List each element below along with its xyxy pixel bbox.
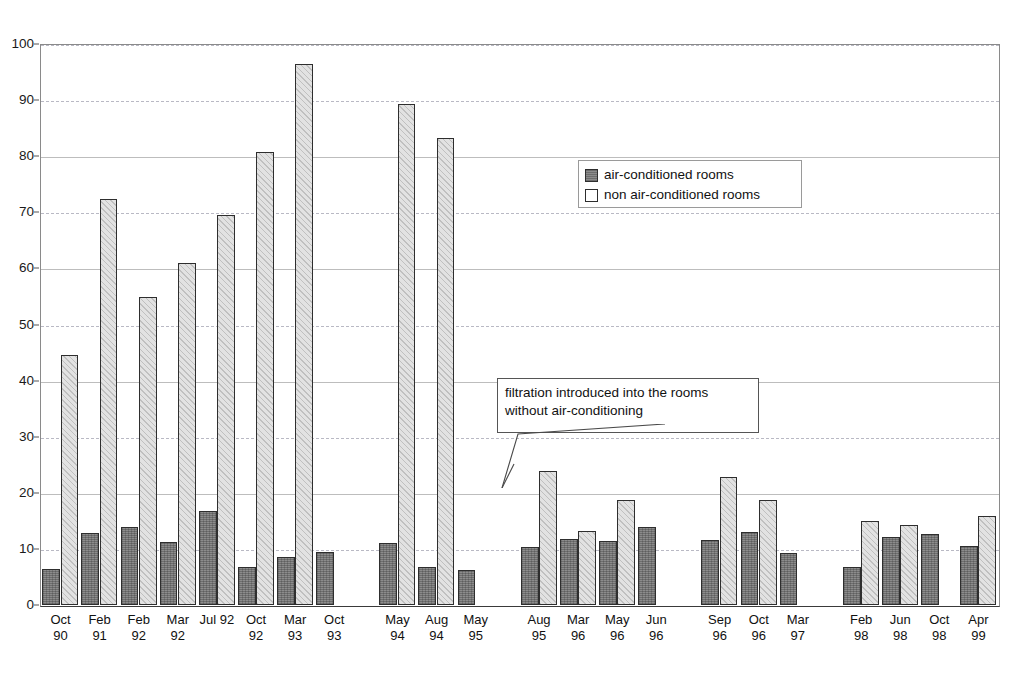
x-tick-label-jun-98: Jun98 bbox=[881, 612, 920, 644]
x-tick-label-oct-92: Oct92 bbox=[236, 612, 275, 644]
x-tick-label-mar-92: Mar92 bbox=[158, 612, 197, 644]
legend-label-air-conditioned: air-conditioned rooms bbox=[604, 168, 734, 182]
bar-mar-93-ac bbox=[277, 557, 295, 605]
x-tick-label-oct-98: Oct98 bbox=[920, 612, 959, 644]
bar-sep-96-ac bbox=[701, 540, 719, 605]
bar-sep-96-non-ac bbox=[720, 477, 738, 605]
bar-aug-94-non-ac bbox=[437, 138, 455, 605]
y-tick-mark-70 bbox=[34, 212, 39, 213]
x-tick-label-jul-92: Jul 92 bbox=[197, 612, 236, 628]
annotation-line-2: without air-conditioning bbox=[505, 402, 751, 420]
y-tick-mark-0 bbox=[34, 605, 39, 606]
legend-item-air-conditioned: air-conditioned rooms bbox=[585, 165, 795, 185]
x-tick-label-oct-96: Oct96 bbox=[739, 612, 778, 644]
bar-aug-95-non-ac bbox=[539, 471, 557, 605]
bar-oct-96-ac bbox=[741, 532, 759, 605]
legend-swatch-light bbox=[585, 189, 598, 202]
y-tick-label-70: 70 bbox=[0, 206, 34, 220]
y-tick-mark-10 bbox=[34, 548, 39, 549]
bar-may-94-ac bbox=[379, 543, 397, 605]
legend-item-non-air-conditioned: non air-conditioned rooms bbox=[585, 185, 795, 205]
y-tick-mark-40 bbox=[34, 380, 39, 381]
bar-oct-90-ac bbox=[42, 569, 60, 605]
bar-mar-93-non-ac bbox=[295, 64, 313, 605]
x-tick-label-mar-97: Mar97 bbox=[778, 612, 817, 644]
bar-feb-92-non-ac bbox=[139, 297, 157, 605]
bar-oct-93-ac bbox=[316, 552, 334, 605]
y-tick-mark-20 bbox=[34, 492, 39, 493]
y-tick-label-40: 40 bbox=[0, 374, 34, 388]
bar-oct-92-non-ac bbox=[256, 152, 274, 605]
bar-may-96-ac bbox=[599, 541, 617, 606]
x-tick-label-sep-96: Sep96 bbox=[700, 612, 739, 644]
y-tick-mark-30 bbox=[34, 436, 39, 437]
x-tick-label-may-94: May94 bbox=[378, 612, 417, 644]
x-tick-label-mar-93: Mar93 bbox=[276, 612, 315, 644]
bar-may-95-ac bbox=[458, 570, 476, 605]
x-tick-label-oct-90: Oct90 bbox=[41, 612, 80, 644]
y-tick-mark-60 bbox=[34, 268, 39, 269]
annotation-line-1: filtration introduced into the rooms bbox=[505, 384, 751, 402]
bar-oct-90-non-ac bbox=[61, 355, 79, 605]
x-tick-label-may-95: May95 bbox=[456, 612, 495, 644]
chart-figure: 0102030405060708090100 Oct90Feb91Feb92Ma… bbox=[0, 0, 1014, 684]
bar-feb-91-non-ac bbox=[100, 199, 118, 605]
y-tick-mark-80 bbox=[34, 156, 39, 157]
y-tick-label-0: 0 bbox=[0, 598, 34, 612]
bar-oct-96-non-ac bbox=[759, 500, 777, 605]
bar-may-94-non-ac bbox=[398, 104, 416, 605]
bar-jul-92-non-ac bbox=[217, 215, 235, 605]
bar-may-96-non-ac bbox=[617, 500, 635, 605]
y-tick-label-30: 30 bbox=[0, 430, 34, 444]
bar-feb-98-non-ac bbox=[861, 521, 879, 605]
y-tick-label-90: 90 bbox=[0, 93, 34, 107]
y-tick-mark-100 bbox=[34, 44, 39, 45]
x-tick-label-feb-92: Feb92 bbox=[119, 612, 158, 644]
bar-mar-92-ac bbox=[160, 542, 178, 605]
x-tick-label-mar-96: Mar96 bbox=[559, 612, 598, 644]
x-axis-labels: Oct90Feb91Feb92Mar92Jul 92Oct92Mar93Oct9… bbox=[41, 612, 998, 672]
bar-mar-96-non-ac bbox=[578, 531, 596, 605]
bar-oct-92-ac bbox=[238, 567, 256, 605]
bar-jul-92-ac bbox=[199, 511, 217, 605]
x-tick-label-may-96: May96 bbox=[598, 612, 637, 644]
y-tick-label-10: 10 bbox=[0, 542, 34, 556]
bar-feb-91-ac bbox=[81, 533, 99, 605]
bar-jun-96-ac bbox=[638, 527, 656, 605]
bar-feb-92-ac bbox=[121, 527, 139, 605]
y-tick-label-20: 20 bbox=[0, 486, 34, 500]
y-tick-label-60: 60 bbox=[0, 262, 34, 276]
y-tick-mark-90 bbox=[34, 100, 39, 101]
bar-jun-98-ac bbox=[882, 537, 900, 605]
x-tick-label-oct-93: Oct93 bbox=[315, 612, 354, 644]
y-axis: 0102030405060708090100 bbox=[0, 44, 34, 605]
bar-aug-94-ac bbox=[418, 567, 436, 605]
legend-label-non-air-conditioned: non air-conditioned rooms bbox=[604, 188, 760, 202]
bar-mar-97-ac bbox=[780, 553, 798, 605]
y-tick-label-50: 50 bbox=[0, 318, 34, 332]
bar-apr-99-non-ac bbox=[978, 516, 996, 605]
x-tick-label-feb-91: Feb91 bbox=[80, 612, 119, 644]
y-tick-label-80: 80 bbox=[0, 149, 34, 163]
x-tick-label-aug-95: Aug95 bbox=[520, 612, 559, 644]
x-tick-label-aug-94: Aug94 bbox=[417, 612, 456, 644]
bar-jun-98-non-ac bbox=[900, 525, 918, 605]
annotation-callout: filtration introduced into the rooms wit… bbox=[497, 378, 759, 433]
bar-apr-99-ac bbox=[960, 546, 978, 605]
bar-aug-95-ac bbox=[521, 547, 539, 605]
bar-layer bbox=[41, 44, 998, 605]
y-tick-label-100: 100 bbox=[0, 37, 34, 51]
bar-mar-92-non-ac bbox=[178, 263, 196, 605]
bar-feb-98-ac bbox=[843, 567, 861, 605]
x-tick-label-feb-98: Feb98 bbox=[842, 612, 881, 644]
bar-oct-98-ac bbox=[921, 534, 939, 605]
chart-legend: air-conditioned rooms non air-conditione… bbox=[578, 160, 802, 208]
legend-swatch-dark bbox=[585, 169, 598, 182]
x-tick-label-apr-99: Apr99 bbox=[959, 612, 998, 644]
bar-mar-96-ac bbox=[560, 539, 578, 605]
x-tick-label-jun-96: Jun96 bbox=[637, 612, 676, 644]
y-tick-mark-50 bbox=[34, 324, 39, 325]
